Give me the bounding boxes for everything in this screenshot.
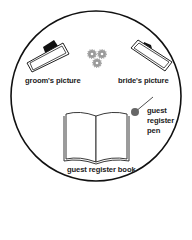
guest-book-label: guest register book (67, 166, 136, 174)
pen-label-line1: guest (147, 107, 167, 115)
pen-label-line3: pen (147, 127, 160, 135)
guest-book-icon (64, 112, 129, 164)
pen-label-line2: register (147, 117, 174, 125)
bride-picture-label: bride's picture (118, 77, 169, 85)
groom-picture-label: groom's picture (25, 77, 81, 85)
